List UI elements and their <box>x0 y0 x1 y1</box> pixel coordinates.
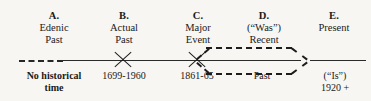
below-line2-a: time <box>2 82 106 94</box>
stage-letter-e: E. <box>300 10 368 22</box>
stage-line1-c: Major <box>163 22 233 34</box>
below-line1-d: Past <box>232 70 292 82</box>
stage-label-b: B. Actual Past <box>88 10 160 45</box>
timeline-diagram: A. Edenic Past B. Actual Past C. Major E… <box>0 0 371 101</box>
below-label-e: (“Is”) 1920 + <box>302 70 368 93</box>
arrow-edge-top <box>206 47 292 49</box>
below-line2-e: 1920 + <box>302 82 368 94</box>
axis-solid-segment-right <box>310 60 366 61</box>
below-label-b: 1699-1960 <box>88 70 160 82</box>
below-line1-c: 1861-65 <box>166 70 228 82</box>
stage-line2-a: Past <box>18 34 90 46</box>
stage-label-a: A. Edenic Past <box>18 10 90 45</box>
stage-line1-a: Edenic <box>18 22 90 34</box>
arrow-head-upper <box>291 48 308 61</box>
stage-letter-c: C. <box>163 10 233 22</box>
stage-line1-b: Actual <box>88 22 160 34</box>
stage-line1-d: (“Was”) <box>228 22 300 34</box>
x-marker-b <box>112 49 134 71</box>
stage-line2-b: Past <box>88 34 160 46</box>
stage-letter-b: B. <box>88 10 160 22</box>
stage-line2-d: Recent <box>228 34 300 46</box>
stage-letter-d: D. <box>228 10 300 22</box>
stage-line1-e: Present <box>300 22 368 34</box>
below-line1-b: 1699-1960 <box>88 70 160 82</box>
below-label-c: 1861-65 <box>166 70 228 82</box>
stage-letter-a: A. <box>18 10 90 22</box>
below-line1-e: (“Is”) <box>302 70 368 82</box>
x-marker-c <box>186 49 208 71</box>
stage-label-c: C. Major Event <box>163 10 233 45</box>
axis-dashed-segment <box>19 60 63 62</box>
stage-line2-c: Event <box>163 34 233 46</box>
stage-label-d: D. (“Was”) Recent <box>228 10 300 45</box>
below-label-d: Past <box>232 70 292 82</box>
stage-label-e: E. Present <box>300 10 368 34</box>
